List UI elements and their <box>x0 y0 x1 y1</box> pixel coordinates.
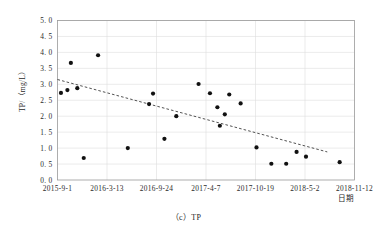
y-axis-tick-labels: 0. 00. 51. 01. 52. 02. 53. 03. 54. 04. 5… <box>40 16 52 185</box>
data-points <box>59 53 342 166</box>
x-axis-title: 日期 <box>338 194 354 203</box>
data-point <box>239 101 243 105</box>
y-tick-label: 4. 5 <box>40 32 52 41</box>
data-point <box>223 112 227 116</box>
x-axis-tick-labels: 2015-9-12016-3-132016-9-242017-4-72017-1… <box>43 184 373 193</box>
data-point <box>284 162 288 166</box>
data-point <box>65 88 69 92</box>
y-tick-label: 3. 5 <box>40 64 52 73</box>
y-tick-label: 1. 5 <box>40 128 52 137</box>
data-point <box>82 156 86 160</box>
trend-line <box>58 80 328 152</box>
data-point <box>215 105 219 109</box>
y-tick-label: 1. 0 <box>40 144 52 153</box>
data-point <box>69 61 73 65</box>
figure-container: 0. 00. 51. 01. 52. 02. 53. 03. 54. 04. 5… <box>0 0 373 228</box>
data-point <box>294 150 298 154</box>
x-tick-label: 2015-9-1 <box>43 184 73 193</box>
scatter-chart: 0. 00. 51. 01. 52. 02. 53. 03. 54. 04. 5… <box>0 0 373 228</box>
data-point <box>218 124 222 128</box>
data-point <box>196 82 200 86</box>
data-point <box>59 91 63 95</box>
y-tick-label: 2. 0 <box>40 112 52 121</box>
data-point <box>151 91 155 95</box>
y-tick-label: 4. 0 <box>40 48 52 57</box>
data-point <box>126 146 130 150</box>
x-tick-label: 2016-9-24 <box>140 184 174 193</box>
data-point <box>162 137 166 141</box>
y-tick-label: 2. 5 <box>40 96 52 105</box>
y-tick-label: 5. 0 <box>40 16 52 25</box>
y-tick-label: 3. 0 <box>40 80 52 89</box>
data-point <box>269 162 273 166</box>
data-point <box>227 92 231 96</box>
data-point <box>304 155 308 159</box>
trend-line-segment <box>58 80 328 152</box>
x-tick-label: 2017-10-19 <box>237 184 275 193</box>
data-point <box>254 145 258 149</box>
data-point <box>174 114 178 118</box>
x-tick-label: 2017-4-7 <box>191 184 221 193</box>
data-point <box>147 102 151 106</box>
data-point <box>208 91 212 95</box>
x-tick-label: 2018-11-12 <box>336 184 373 193</box>
data-point <box>75 86 79 90</box>
x-tick-label: 2016-3-13 <box>90 184 124 193</box>
data-point <box>338 160 342 164</box>
gridlines <box>58 21 355 181</box>
figure-caption: （c）TP <box>171 213 202 222</box>
y-axis-title: TP/（mg/L） <box>18 67 27 112</box>
data-point <box>96 53 100 57</box>
y-tick-label: 0. 5 <box>40 160 52 169</box>
x-tick-label: 2018-5-2 <box>290 184 320 193</box>
